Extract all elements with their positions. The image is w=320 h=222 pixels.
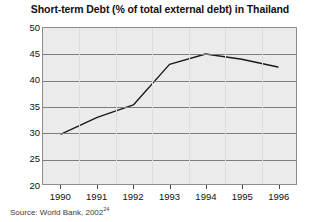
y-axis-tick-label: 20 [4, 181, 40, 190]
source-label: Source: World Bank, 2002 [10, 208, 103, 217]
x-axis-tick-label: 1996 [268, 191, 289, 202]
y-axis-tick-label: 50 [4, 23, 40, 32]
x-axis-tick-mark [97, 185, 98, 189]
y-axis-tick-label: 40 [4, 75, 40, 84]
x-axis-tick-label: 1992 [122, 191, 143, 202]
source-note: Source: World Bank, 200224 [10, 206, 109, 217]
x-axis-tick-label: 1990 [50, 191, 71, 202]
gridline [43, 107, 296, 108]
y-axis-tick-label: 45 [4, 49, 40, 58]
x-axis-tick-label: 1993 [159, 191, 180, 202]
chart-title: Short-term Debt (% of total external deb… [0, 3, 320, 15]
gridline [43, 160, 296, 161]
source-footnote-marker: 24 [103, 206, 109, 212]
y-axis-tick-label: 35 [4, 102, 40, 111]
y-axis-tick-label: 30 [4, 128, 40, 137]
y-axis: 50454035302520 [0, 27, 40, 185]
x-axis-tick-mark [170, 185, 171, 189]
vertical-gridline [189, 28, 190, 184]
x-axis-tick-mark [242, 185, 243, 189]
x-axis-tick-label: 1994 [195, 191, 216, 202]
x-axis-tick-mark [206, 185, 207, 189]
gridline [43, 54, 296, 55]
vertical-gridline [116, 28, 117, 184]
x-axis-tick-label: 1991 [86, 191, 107, 202]
x-axis-tick-mark [60, 185, 61, 189]
plot-inner [43, 28, 296, 184]
chart-figure: Short-term Debt (% of total external deb… [0, 0, 320, 222]
vertical-gridline [79, 28, 80, 184]
x-axis-tick-mark [279, 185, 280, 189]
vertical-gridline [262, 28, 263, 184]
vertical-gridline [152, 28, 153, 184]
x-axis-tick-mark [133, 185, 134, 189]
gridline [43, 81, 296, 82]
gridline [43, 133, 296, 134]
vertical-gridline [225, 28, 226, 184]
x-axis-tick-label: 1995 [232, 191, 253, 202]
y-axis-tick-label: 25 [4, 154, 40, 163]
plot-area [42, 27, 297, 185]
